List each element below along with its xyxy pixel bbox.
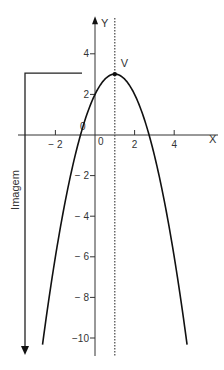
x-ticks: − 224 [48,130,177,150]
y-tick-label: − 2 [75,170,90,181]
y-tick-label: 2 [83,89,89,100]
image-bracket-line [25,73,82,348]
y-tick-label: − 8 [75,292,90,303]
vertex-label: V [121,57,129,69]
y-axis-label: Y [101,17,109,29]
y-tick-label: − 4 [75,211,90,222]
vertex-point [113,72,117,76]
x-tick-label: 2 [132,139,138,150]
x-tick-label: 4 [171,139,177,150]
image-label: Imagem [9,170,21,210]
origin-label: 0 [98,136,104,147]
x-tick-label: − 2 [48,139,63,150]
image-bracket: Imagem [9,73,82,355]
parabola-chart: X Y − 224 42− 2− 4− 6− 8−10 0 0 Imagem V [0,0,224,370]
y-axis-arrow-icon [92,16,98,24]
y-tick-label: −10 [72,333,89,344]
y-ticks: 42− 2− 4− 6− 8−10 [72,48,95,343]
arrow-down-icon [21,346,29,355]
x-axis-label: X [209,133,217,145]
y-tick-label: 4 [83,48,89,59]
y-tick-label: − 6 [75,251,90,262]
